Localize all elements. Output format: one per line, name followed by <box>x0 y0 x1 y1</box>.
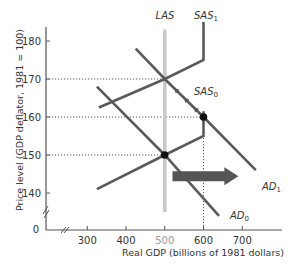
curve-label-sas1: SAS1 <box>194 10 218 23</box>
reference-lines <box>46 79 204 230</box>
curve-label-subscript: 1 <box>214 15 218 23</box>
curve-ad0 <box>97 87 219 216</box>
curve-label-subscript: 1 <box>277 186 281 194</box>
curve-label-las: LAS <box>156 10 175 21</box>
x-tick-label: 400 <box>116 235 135 246</box>
equilibrium-point <box>161 151 169 159</box>
x-tick-label: 700 <box>233 235 252 246</box>
curve-label-subscript: 0 <box>245 215 249 223</box>
curve-labels: LASSAS1SAS0AD0AD1 <box>156 10 281 223</box>
curve-label-main: SAS <box>194 86 214 97</box>
x-tick-label: 300 <box>78 235 97 246</box>
curve-label-sas0: SAS0 <box>194 86 218 99</box>
y-axis-title: Price level (GDP deflator, 1981 = 100) <box>14 29 25 211</box>
curve-label-main: AD <box>229 210 245 221</box>
x-tick-label: 600 <box>194 235 213 246</box>
equilibrium-point <box>200 113 208 121</box>
curve-label-main: SAS <box>194 10 214 21</box>
curve-label-main: AD <box>261 181 277 192</box>
curve-label-ad1: AD1 <box>261 181 281 194</box>
chart: 300400500600700140150160170180 LASSAS1SA… <box>0 0 295 266</box>
curve-label-main: LAS <box>156 10 175 21</box>
ad-shift-arrow <box>173 167 239 185</box>
curves <box>97 22 256 216</box>
origin-label: 0 <box>33 224 39 235</box>
annotations <box>173 89 239 186</box>
x-axis-title: Real GDP (billions of 1981 dollars) <box>122 247 284 258</box>
curve-label-ad0: AD0 <box>229 210 249 223</box>
equilibrium-points <box>161 113 207 159</box>
curve-label-subscript: 0 <box>214 91 218 99</box>
x-tick-label: 500 <box>155 235 174 246</box>
